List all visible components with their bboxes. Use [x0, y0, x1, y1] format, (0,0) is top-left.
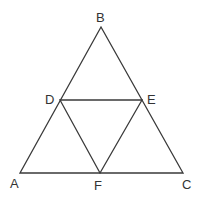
- label-b: B: [96, 10, 105, 25]
- label-d: D: [45, 92, 54, 107]
- label-e: E: [147, 92, 156, 107]
- label-c: C: [182, 177, 191, 192]
- triangle-diagram: B D E A F C: [0, 0, 200, 199]
- inner-triangle-def: [60, 100, 142, 173]
- label-a: A: [10, 176, 19, 191]
- label-f: F: [94, 178, 102, 193]
